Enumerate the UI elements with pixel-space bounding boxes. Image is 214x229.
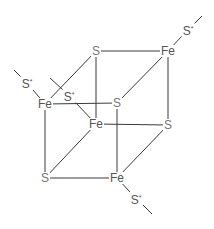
bond-s-right-fe-bottom — [117, 125, 168, 178]
bond-sstar-bottom-tail — [143, 205, 152, 214]
fe4s4-cluster-diagram: S Fe Fe S Fe S S Fe S* S* S* S* — [0, 0, 214, 229]
bond-sstar-inner-tail — [50, 78, 63, 90]
bond-fe-mid-s-bottom-left — [45, 124, 96, 178]
bond-fe-mid-s-right — [96, 124, 168, 125]
atom-fe-left: Fe — [37, 98, 53, 110]
atom-s-bottom-left: S — [40, 172, 50, 184]
bond-sstar-top-tail — [194, 16, 202, 24]
ligand-sstar-inner: S* — [63, 89, 76, 103]
atom-fe-top: Fe — [160, 45, 176, 57]
atom-s-right: S — [163, 119, 173, 131]
atom-fe-bottom: Fe — [109, 172, 125, 184]
bond-fe-top-s-mid — [117, 51, 168, 103]
atom-s-mid: S — [112, 97, 122, 109]
ligand-sstar-bottom: S* — [130, 192, 143, 206]
atom-s-top: S — [91, 45, 101, 57]
ligand-sstar-left: S* — [21, 76, 34, 90]
atom-fe-mid: Fe — [88, 118, 104, 130]
bond-fe-left-s-mid — [45, 103, 117, 104]
ligand-sstar-top: S* — [182, 23, 195, 37]
